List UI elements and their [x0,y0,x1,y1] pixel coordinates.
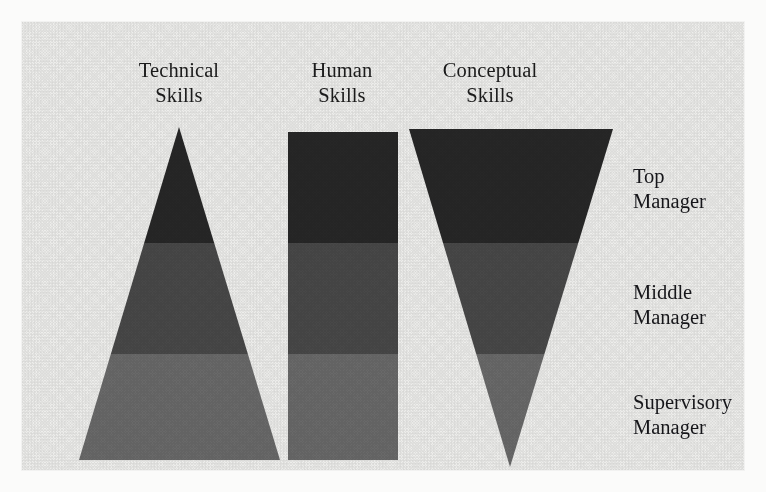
column-title-conceptual-line1: Conceptual [370,58,610,83]
figure-page: Technical Skills Human Skills Conceptual… [0,0,766,492]
column-title-conceptual: Conceptual Skills [370,58,610,108]
level-label-supervisory-manager-line1: Supervisory [633,390,732,415]
level-label-top-manager: Top Manager [633,164,706,214]
figure-area: Technical Skills Human Skills Conceptual… [22,22,744,470]
column-title-conceptual-line2: Skills [370,83,610,108]
level-label-middle-manager-line2: Manager [633,305,706,330]
conceptual-skills-shape [402,122,622,470]
level-label-top-manager-line2: Manager [633,189,706,214]
level-label-middle-manager: Middle Manager [633,280,706,330]
figure-panel: Technical Skills Human Skills Conceptual… [22,22,744,470]
level-label-supervisory-manager-line2: Manager [633,415,732,440]
human-skills-shape [282,127,407,464]
level-label-supervisory-manager: Supervisory Manager [633,390,732,440]
technical-skills-shape [62,122,302,464]
level-label-middle-manager-line1: Middle [633,280,706,305]
level-label-top-manager-line1: Top [633,164,706,189]
